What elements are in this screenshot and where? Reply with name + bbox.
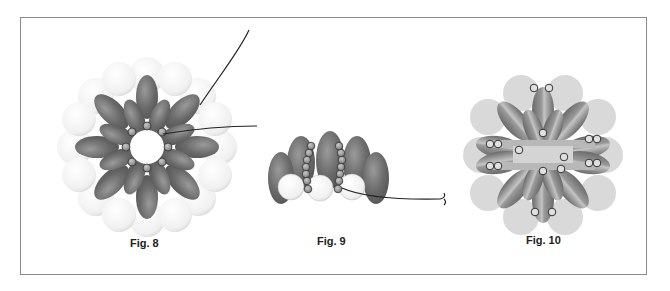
fig9-caption: Fig. 9 bbox=[317, 235, 346, 247]
fig10-caption: Fig. 10 bbox=[526, 234, 561, 246]
fig9-illustration bbox=[268, 131, 446, 205]
fig8-caption: Fig. 8 bbox=[130, 237, 159, 249]
fig10-illustration bbox=[463, 75, 623, 235]
beading-diagram bbox=[0, 0, 670, 291]
fig8-illustration bbox=[57, 57, 237, 237]
